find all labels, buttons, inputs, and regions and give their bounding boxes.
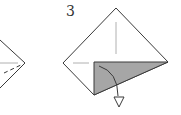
folded-flap-shaded xyxy=(94,62,168,95)
step-2-partial xyxy=(0,40,25,88)
step-number: 3 xyxy=(66,3,75,19)
fold-arrowhead-icon xyxy=(114,97,124,107)
paper-edge xyxy=(0,40,25,88)
step-3 xyxy=(63,8,168,107)
diagram-canvas xyxy=(0,0,181,115)
origami-diagram: 3 xyxy=(0,0,181,115)
